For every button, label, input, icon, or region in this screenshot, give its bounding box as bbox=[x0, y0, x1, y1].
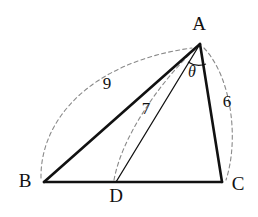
length-label-AB: 9 bbox=[103, 74, 112, 93]
vertex-label-B: B bbox=[19, 170, 32, 191]
measure-arc-AB bbox=[41, 48, 192, 178]
length-label-AC: 6 bbox=[223, 92, 232, 111]
measure-arc-AD bbox=[114, 48, 196, 180]
vertex-label-D: D bbox=[109, 185, 123, 206]
vertex-label-A: A bbox=[192, 13, 206, 34]
angle-label-theta: θ bbox=[188, 63, 196, 80]
edge-AB bbox=[44, 44, 200, 182]
vertex-label-C: C bbox=[232, 173, 245, 194]
geometry-figure: θ A B C D 9 7 6 bbox=[0, 0, 258, 217]
length-label-AD: 7 bbox=[142, 99, 151, 118]
geometry-canvas: θ A B C D 9 7 6 bbox=[0, 0, 258, 217]
